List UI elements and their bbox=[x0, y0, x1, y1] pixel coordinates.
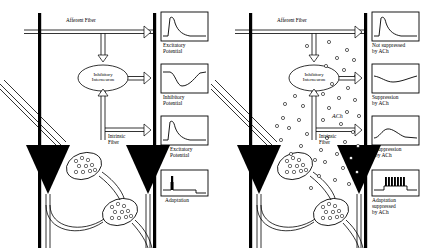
synaptic-terminal-upper bbox=[63, 148, 105, 184]
trace-label-line2: by ACh bbox=[372, 49, 408, 55]
terminal-lower-tail-a bbox=[346, 220, 363, 248]
label-interneuron-line2: Interneuron bbox=[81, 77, 125, 82]
pyramidal-cell-left-soma bbox=[26, 145, 70, 194]
synapse-bouton-interneuron-target bbox=[144, 72, 151, 84]
panel-acetylcholine: Afferent Fiber Inhibitory Interneuron In… bbox=[211, 0, 422, 248]
label-intrinsic-fiber: Intrinsic Fiber bbox=[319, 134, 341, 145]
cortical-boundary-right bbox=[153, 13, 156, 248]
terminal-upper-tail-a bbox=[310, 176, 331, 200]
label-intrinsic-line2: Fiber bbox=[319, 140, 341, 146]
label-intrinsic-fiber: Intrinsic Fiber bbox=[108, 134, 130, 145]
trace-box-not-suppressed-by-ach bbox=[372, 12, 419, 41]
panel-control-drawing bbox=[0, 0, 211, 248]
cortical-boundary-right bbox=[364, 13, 367, 248]
apical-dendrite-1b bbox=[211, 89, 270, 148]
trace-box-suppression-by-ach-inhibitory bbox=[372, 64, 419, 93]
trace-label-inhibitory-potential: Inhibitory Potential bbox=[163, 95, 197, 107]
apical-dendrite-1a bbox=[211, 84, 273, 146]
apical-dendrite-2a bbox=[215, 80, 277, 142]
trace-label-adaptation: Adaptation bbox=[165, 198, 199, 204]
synapse-bouton-afferent-target bbox=[144, 26, 151, 38]
label-ach: ACh bbox=[332, 113, 343, 119]
synapse-bouton-afferent-interneuron bbox=[309, 55, 319, 62]
synapse-bouton-afferent-target bbox=[355, 26, 362, 38]
label-interneuron-line2: Interneuron bbox=[292, 77, 336, 82]
synaptic-terminal-upper bbox=[274, 148, 316, 184]
trace-label-line2: by ACh bbox=[372, 101, 408, 107]
trace-label-line2: Potential bbox=[163, 101, 197, 107]
trace-label-adaptation-suppressed-by-ach: Adaptation suppressed by ACh bbox=[372, 198, 408, 215]
trace-box-adaptation bbox=[161, 170, 208, 196]
trace-label-excitatory-potential-2: Excitatory Potential bbox=[170, 147, 204, 159]
trace-box-excitatory-potential bbox=[161, 12, 208, 41]
trace-label-line2: Potential bbox=[163, 49, 197, 55]
trace-label-line1: Adaptation bbox=[165, 198, 199, 204]
synapse-bouton-intrinsic-target bbox=[355, 124, 362, 136]
trace-label-line3: by ACh bbox=[372, 210, 408, 216]
recurrent-collateral-b bbox=[261, 205, 315, 227]
pyramidal-cell-left-soma bbox=[237, 145, 281, 194]
trace-label-not-suppressed-by-ach: Not suppressed by ACh bbox=[372, 43, 408, 55]
label-inhibitory-interneuron: Inhibitory Interneuron bbox=[292, 72, 336, 82]
terminal-lower-tail-a bbox=[135, 220, 152, 248]
trace-label-line2: by ACh bbox=[375, 153, 411, 159]
trace-label-suppression-by-ach-excitatory: Suppression by ACh bbox=[375, 147, 411, 159]
recurrent-collateral-b bbox=[50, 205, 104, 227]
trace-label-excitatory-potential: Excitatory Potential bbox=[163, 43, 197, 55]
cortical-boundary-left bbox=[249, 13, 252, 248]
figure-canvas: Afferent Fiber Inhibitory Interneuron In… bbox=[0, 0, 422, 248]
terminal-upper-tail-a bbox=[99, 176, 120, 200]
synapse-bouton-intrinsic-target bbox=[144, 124, 151, 136]
apical-dendrite-1b bbox=[0, 89, 59, 148]
label-intrinsic-line2: Fiber bbox=[108, 140, 130, 146]
terminal-upper-tail-b bbox=[102, 172, 124, 198]
trace-box-excitatory-potential-2 bbox=[161, 116, 208, 145]
label-afferent-fiber: Afferent Fiber bbox=[277, 18, 307, 24]
synapse-bouton-interneuron-target bbox=[355, 72, 362, 84]
trace-label-line2: Potential bbox=[170, 153, 204, 159]
panel-control: Afferent Fiber Inhibitory Interneuron In… bbox=[0, 0, 211, 248]
cortical-boundary-left bbox=[38, 13, 41, 248]
trace-box-inhibitory-potential bbox=[161, 64, 208, 93]
apical-dendrite-2a bbox=[4, 80, 66, 142]
adaptation-spike bbox=[171, 176, 173, 190]
trace-box-suppression-by-ach-excitatory bbox=[372, 116, 419, 145]
terminal-upper-tail-b bbox=[313, 172, 335, 198]
apical-dendrite-1a bbox=[0, 84, 62, 146]
label-inhibitory-interneuron: Inhibitory Interneuron bbox=[81, 72, 125, 82]
label-afferent-fiber: Afferent Fiber bbox=[66, 18, 96, 24]
synapse-bouton-afferent-interneuron bbox=[98, 55, 108, 62]
trace-label-suppression-by-ach-inhibitory: Suppression by ACh bbox=[372, 95, 408, 107]
